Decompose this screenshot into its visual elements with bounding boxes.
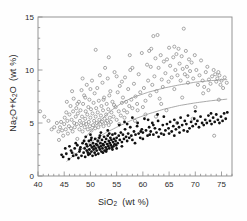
y-axis-label-subscript-a: 2: [11, 116, 18, 120]
data-point: [82, 151, 85, 154]
data-point: [194, 123, 197, 126]
x-axis-tick-label: 55: [112, 180, 121, 189]
data-point: [211, 75, 214, 78]
data-point: [105, 150, 108, 153]
data-point: [221, 119, 224, 122]
data-point: [198, 126, 201, 129]
data-point: [173, 134, 176, 137]
data-point: [126, 111, 129, 114]
data-point: [90, 150, 93, 153]
data-point: [112, 115, 115, 118]
data-point: [136, 102, 139, 105]
data-point: [70, 118, 73, 121]
data-point: [107, 56, 110, 59]
data-point: [94, 138, 97, 141]
data-point: [183, 119, 186, 122]
data-point: [189, 70, 192, 73]
data-point: [181, 67, 184, 70]
data-point: [158, 128, 161, 131]
data-point: [226, 111, 229, 114]
data-point: [157, 119, 160, 122]
data-point: [147, 118, 150, 121]
data-point: [145, 129, 148, 132]
data-point: [69, 104, 72, 107]
data-point: [68, 145, 71, 148]
data-point: [152, 124, 155, 127]
data-point: [190, 121, 193, 124]
data-point: [72, 110, 75, 113]
data-point: [136, 122, 139, 125]
data-point: [136, 109, 139, 112]
y-axis-label-part-a: Na: [8, 120, 18, 132]
data-point: [115, 75, 118, 78]
data-point: [99, 142, 102, 145]
data-point: [146, 63, 149, 66]
data-point: [84, 156, 87, 159]
data-point: [131, 66, 134, 69]
data-point: [186, 75, 189, 78]
data-point: [125, 135, 128, 138]
data-point: [154, 57, 157, 60]
data-point: [139, 130, 142, 133]
data-point: [222, 86, 225, 89]
data-point: [98, 74, 101, 77]
data-point: [89, 108, 92, 111]
data-point: [164, 129, 167, 132]
data-point: [139, 136, 142, 139]
data-point: [55, 121, 58, 124]
data-point: [139, 91, 142, 94]
data-point: [202, 92, 205, 95]
data-point: [157, 66, 160, 69]
data-point: [196, 83, 199, 86]
data-point: [141, 138, 144, 141]
data-point: [105, 138, 108, 141]
data-point: [185, 65, 188, 68]
data-point: [207, 89, 210, 92]
data-point: [182, 27, 185, 30]
data-point: [101, 81, 104, 84]
tas-scatter-figure: 4045505560657075051015 SiO2(wt %) Na2O+K…: [0, 0, 247, 221]
data-point: [106, 129, 109, 132]
data-point: [188, 127, 191, 130]
data-point: [86, 128, 89, 131]
data-point: [178, 126, 181, 129]
data-point: [94, 127, 97, 130]
data-point: [58, 126, 61, 129]
data-point: [109, 90, 112, 93]
data-point: [178, 131, 181, 134]
data-point: [128, 104, 131, 107]
data-point: [73, 147, 76, 150]
data-point: [80, 89, 83, 92]
data-point: [74, 142, 77, 145]
data-point: [200, 59, 203, 62]
data-point: [88, 98, 91, 101]
x-axis-tick-label: 40: [34, 180, 43, 189]
data-point: [167, 127, 170, 130]
data-point: [168, 46, 171, 49]
x-axis-label-subscript: 2: [114, 200, 118, 207]
data-point: [89, 88, 92, 91]
y-axis-label-part-b: O+K: [8, 97, 18, 116]
data-point: [169, 121, 172, 124]
data-point: [97, 126, 100, 129]
data-point: [103, 135, 106, 138]
data-point: [214, 73, 217, 76]
data-point: [149, 94, 152, 97]
data-point: [148, 133, 151, 136]
data-point: [104, 66, 107, 69]
data-point: [160, 78, 163, 81]
data-point: [68, 158, 71, 161]
data-point: [126, 140, 129, 143]
data-point: [172, 56, 175, 59]
data-point: [72, 154, 75, 157]
data-point: [108, 147, 111, 150]
data-point: [207, 114, 210, 117]
data-point: [79, 148, 82, 151]
data-point: [127, 88, 130, 91]
data-point: [136, 125, 139, 128]
data-point: [89, 116, 92, 119]
x-axis-tick-label: 75: [217, 180, 226, 189]
x-axis-tick-label: 65: [165, 180, 174, 189]
data-point: [206, 65, 209, 68]
data-point: [134, 133, 137, 136]
